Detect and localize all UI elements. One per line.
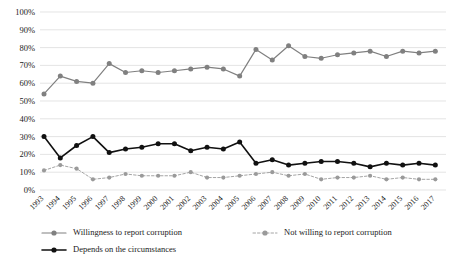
data-point: [237, 139, 242, 144]
data-point: [42, 134, 47, 139]
y-axis-tick-label: 100%: [15, 7, 35, 17]
x-axis-tick-label: 2014: [370, 194, 388, 212]
x-axis-tick-label: 1999: [126, 194, 144, 212]
legend-item[interactable]: Willingness to report corruption: [42, 227, 183, 237]
y-axis-tick-label: 10%: [19, 167, 35, 177]
series-layer: [42, 43, 438, 181]
data-point: [172, 141, 177, 146]
data-point: [139, 68, 144, 73]
data-point: [123, 70, 128, 75]
x-axis-tick-label: 1994: [44, 194, 62, 212]
y-axis-tick-label: 60%: [19, 78, 35, 88]
data-point: [189, 170, 193, 174]
data-point: [156, 70, 161, 75]
data-point: [58, 163, 62, 167]
data-point: [107, 61, 112, 66]
y-axis-tick-label: 80%: [19, 43, 35, 53]
y-axis-tick-label: 40%: [19, 114, 35, 124]
data-point: [400, 163, 405, 168]
x-axis-tick-label: 2003: [191, 194, 209, 212]
data-point: [107, 150, 112, 155]
data-point: [417, 50, 422, 55]
data-point: [188, 66, 193, 71]
data-point: [156, 174, 160, 178]
data-point: [335, 52, 340, 57]
data-point: [205, 145, 210, 150]
data-point: [221, 66, 226, 71]
y-axis-tick-label: 70%: [19, 60, 35, 70]
data-point: [351, 50, 356, 55]
data-point: [254, 172, 258, 176]
data-point: [352, 175, 356, 179]
data-point: [188, 148, 193, 153]
x-axis-tick-label: 2001: [158, 194, 176, 212]
data-point: [319, 56, 324, 61]
legend-label: Depends on the circumstances: [73, 244, 176, 254]
data-point: [238, 174, 242, 178]
x-axis-tick-label: 1996: [77, 194, 95, 212]
data-point: [270, 157, 275, 162]
data-point: [433, 177, 437, 181]
data-point: [270, 58, 275, 63]
data-point: [286, 163, 291, 168]
data-point: [237, 74, 242, 79]
data-point: [368, 164, 373, 169]
y-axis-tick-label: 30%: [19, 132, 35, 142]
data-point: [302, 161, 307, 166]
data-point: [384, 54, 389, 59]
data-point: [123, 172, 127, 176]
data-point: [140, 174, 144, 178]
legend-item[interactable]: Not willing to report corruption: [253, 227, 392, 237]
data-point: [302, 54, 307, 59]
data-point: [75, 167, 79, 171]
x-axis-tick-label: 2012: [338, 194, 356, 212]
y-axis-tick-label: 20%: [19, 149, 35, 159]
x-axis-tick-label: 2002: [174, 194, 192, 212]
x-axis-tick-label: 2010: [305, 194, 323, 212]
data-point: [384, 161, 389, 166]
data-point: [253, 47, 258, 52]
data-point: [42, 91, 47, 96]
data-point: [368, 49, 373, 54]
data-point: [221, 175, 225, 179]
data-point: [368, 174, 372, 178]
data-point: [58, 155, 63, 160]
legend-label: Willingness to report corruption: [73, 227, 183, 237]
x-axis-tick-label: 1998: [109, 194, 127, 212]
x-axis-tick-label: 1997: [93, 194, 111, 212]
x-axis-tick-label: 1993: [28, 194, 46, 212]
x-axis-tick-label: 2007: [256, 194, 274, 212]
chart-legend: Willingness to report corruptionNot will…: [42, 227, 392, 254]
data-point: [42, 168, 46, 172]
data-point: [303, 172, 307, 176]
x-axis-tick-label: 2000: [142, 194, 160, 212]
data-point: [74, 143, 79, 148]
x-axis-labels: 1993199419951996199719981999200020012002…: [28, 194, 437, 212]
x-axis-tick-label: 2005: [223, 194, 241, 212]
legend-marker: [51, 247, 56, 252]
x-axis-tick-label: 2013: [354, 194, 372, 212]
y-axis-tick-label: 50%: [19, 96, 35, 106]
legend-item[interactable]: Depends on the circumstances: [42, 244, 176, 254]
data-point: [156, 141, 161, 146]
x-axis-tick-label: 2004: [207, 194, 225, 212]
data-point: [172, 174, 176, 178]
series-1: [42, 43, 438, 96]
x-axis-tick-label: 2017: [419, 194, 437, 212]
data-point: [58, 74, 63, 79]
data-point: [90, 81, 95, 86]
legend-label: Not willing to report corruption: [284, 227, 392, 237]
data-point: [205, 175, 209, 179]
series-line: [44, 46, 435, 94]
data-point: [401, 175, 405, 179]
x-axis-tick-label: 2011: [321, 194, 338, 211]
x-axis-tick-label: 2008: [272, 194, 290, 212]
data-point: [74, 79, 79, 84]
data-point: [384, 177, 388, 181]
data-point: [351, 161, 356, 166]
data-point: [270, 170, 274, 174]
data-point: [123, 147, 128, 152]
data-point: [172, 68, 177, 73]
data-point: [433, 49, 438, 54]
legend-marker: [51, 230, 56, 235]
